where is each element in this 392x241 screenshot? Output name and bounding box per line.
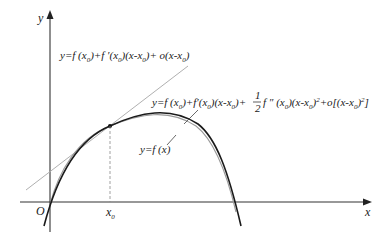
fraction-denominator: 2 bbox=[255, 102, 261, 114]
quadratic-formula-label-b: f ″ (x0)(x-x0)2+o[(x-x0)2] bbox=[263, 96, 369, 111]
function-curve bbox=[44, 113, 241, 226]
y-axis-label: y bbox=[37, 11, 44, 25]
function-label: y=f (x) bbox=[139, 143, 171, 156]
x0-label: x0 bbox=[105, 205, 115, 221]
x-axis-label: x bbox=[364, 205, 371, 219]
origin-label: O bbox=[36, 204, 45, 218]
y-axis-arrow-icon bbox=[47, 10, 54, 19]
taylor-diagram: y x O x0 y=f (x0)+f ′(x0)(x-x0)+ o(x-x0)… bbox=[0, 0, 392, 241]
quadratic-formula-label-a: y=f (x0)+f′(x0)(x-x0)+ bbox=[151, 96, 246, 111]
fraction-numerator: 1 bbox=[255, 89, 261, 101]
tangent-formula-label: y=f (x0)+f ′(x0)(x-x0)+ o(x-x0) bbox=[59, 49, 190, 64]
quadratic-approximation-curve bbox=[50, 115, 236, 212]
axes bbox=[20, 10, 372, 232]
